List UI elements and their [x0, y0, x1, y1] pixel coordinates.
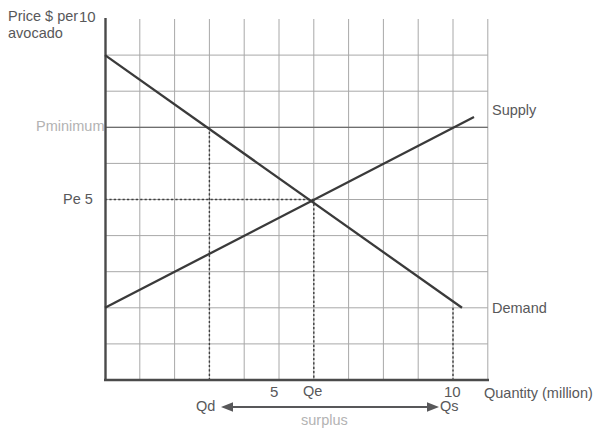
- x-axis-tick-5: 5: [270, 383, 278, 400]
- x-axis-caption: Quantity (million): [484, 385, 593, 402]
- supply-curve-label: Supply: [492, 102, 536, 119]
- price-minimum-label: Pminimum: [36, 118, 104, 135]
- x-axis-tick-qe: Qe: [303, 383, 322, 400]
- supply-demand-chart: [0, 0, 605, 435]
- quantity-supplied-label: Qs: [440, 398, 459, 415]
- quantity-demanded-label: Qd: [196, 398, 215, 415]
- y-axis-tick-10: 10: [79, 8, 96, 25]
- surplus-arrow: [221, 402, 439, 412]
- y-axis-caption-line2: avocado: [8, 25, 63, 41]
- y-axis-caption-line1: Price $ per: [8, 8, 78, 24]
- demand-curve: [105, 55, 462, 308]
- surplus-label: surplus: [301, 412, 348, 429]
- demand-curve-label: Demand: [492, 300, 547, 317]
- y-axis-caption: Price $ peravocado: [8, 8, 78, 42]
- equilibrium-price-label: Pe 5: [63, 191, 93, 208]
